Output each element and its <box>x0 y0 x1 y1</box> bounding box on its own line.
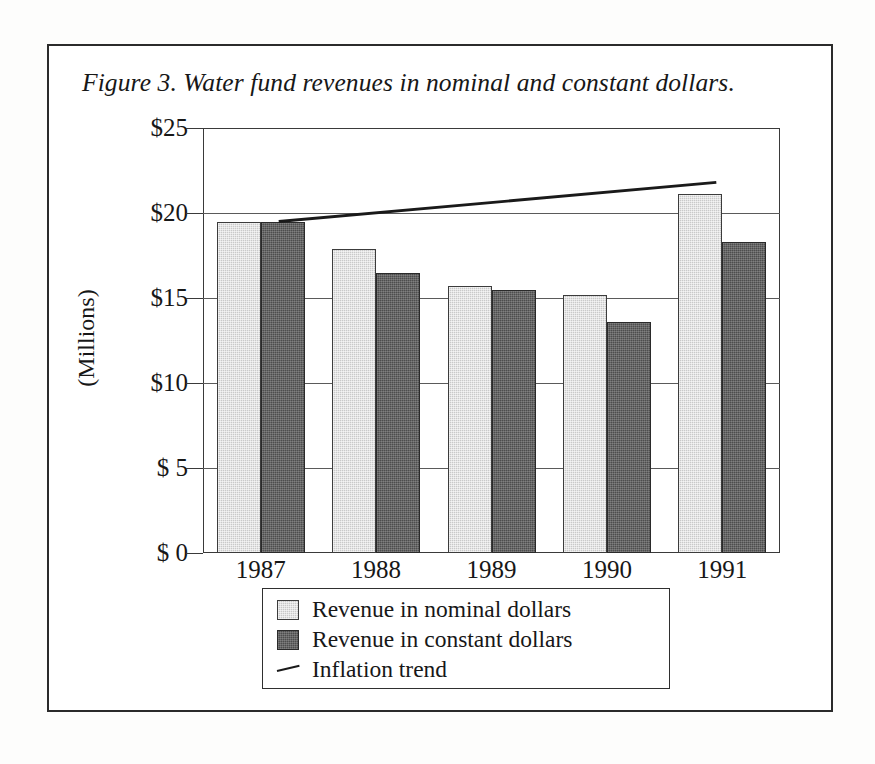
y-tick-label-25: $25 <box>151 114 189 142</box>
legend-swatch-constant-icon <box>277 630 299 650</box>
y-tick-mark-25 <box>186 128 203 129</box>
bar-constant-1989 <box>492 290 536 554</box>
x-tick-label-1989: 1989 <box>467 556 517 584</box>
bar-constant-1987 <box>261 222 305 554</box>
y-tick-label-20: $20 <box>151 199 189 227</box>
bar-nominal-1988 <box>332 249 376 553</box>
y-tick-label-5: $ 5 <box>157 454 188 482</box>
legend-item-2: Inflation trend <box>277 655 669 685</box>
y-axis-title: (Millions) <box>73 289 100 386</box>
figure-root: Figure 3. Water fund revenues in nominal… <box>0 0 875 764</box>
bar-constant-1988 <box>376 273 420 554</box>
legend-swatch-line-key-icon <box>277 660 299 680</box>
y-axis-tick-labels: $25$20$15$10$ 5$ 0 <box>128 128 196 553</box>
plot-area <box>203 128 780 553</box>
y-tick-mark-15 <box>186 298 203 299</box>
legend-label-2: Inflation trend <box>312 658 447 682</box>
bar-nominal-1989 <box>448 286 492 553</box>
chart-legend: Revenue in nominal dollarsRevenue in con… <box>262 588 670 689</box>
x-tick-label-1991: 1991 <box>697 556 747 584</box>
bar-nominal-1987 <box>217 222 261 554</box>
bar-nominal-1990 <box>563 295 607 553</box>
legend-label-1: Revenue in constant dollars <box>312 628 572 652</box>
y-tick-label-15: $15 <box>151 284 189 312</box>
y-tick-mark-10 <box>186 383 203 384</box>
y-tick-label-0: $ 0 <box>157 539 188 567</box>
figure-title: Figure 3. Water fund revenues in nominal… <box>82 68 802 98</box>
y-tick-label-10: $10 <box>151 369 189 397</box>
bar-constant-1990 <box>607 322 651 553</box>
legend-label-0: Revenue in nominal dollars <box>312 598 571 622</box>
y-tick-mark-0 <box>186 553 203 554</box>
x-tick-label-1987: 1987 <box>236 556 286 584</box>
x-tick-label-1988: 1988 <box>351 556 401 584</box>
bar-nominal-1991 <box>678 194 722 553</box>
x-tick-label-1990: 1990 <box>582 556 632 584</box>
y-tick-mark-5 <box>186 468 203 469</box>
y-tick-mark-20 <box>186 213 203 214</box>
legend-swatch-nominal-icon <box>277 600 299 620</box>
legend-item-1: Revenue in constant dollars <box>277 625 669 655</box>
legend-item-0: Revenue in nominal dollars <box>277 595 669 625</box>
bar-constant-1991 <box>722 242 766 553</box>
